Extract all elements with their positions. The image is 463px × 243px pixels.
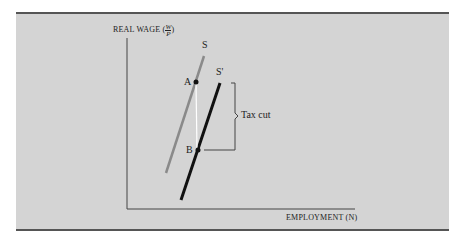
curve-label-s: S	[202, 39, 208, 50]
y-axis-label: REAL WAGE (WP)	[113, 24, 174, 37]
point-b	[196, 148, 201, 153]
curve-label-s-prime: S'	[216, 66, 223, 77]
tax-cut-label: Tax cut	[241, 109, 271, 120]
supply-curve-s-prime	[181, 83, 220, 200]
supply-curve-s	[166, 56, 204, 173]
point-label-a: A	[184, 76, 191, 87]
a-to-b-connector	[196, 83, 197, 150]
labor-supply-diagram	[0, 0, 463, 243]
x-axis-label: EMPLOYMENT (N)	[286, 213, 357, 222]
point-label-b: B	[186, 144, 193, 155]
point-a	[194, 80, 199, 85]
